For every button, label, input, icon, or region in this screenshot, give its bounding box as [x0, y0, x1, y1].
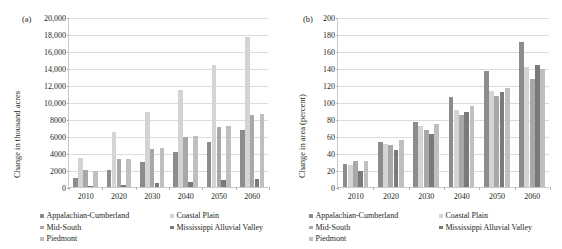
bar — [212, 65, 217, 187]
x-axis-tick-label: 2030 — [144, 192, 160, 201]
x-axis-tick-mark — [202, 187, 203, 190]
y-axis-tick-mark — [67, 103, 69, 104]
y-axis-tick-mark — [67, 86, 69, 87]
gridline — [69, 69, 268, 70]
x-axis-tick-mark — [338, 187, 339, 190]
bar — [178, 90, 183, 187]
x-axis-tick-mark — [136, 187, 137, 190]
bar — [207, 142, 212, 187]
bar — [245, 37, 250, 187]
bar — [454, 110, 459, 187]
legend-swatch-icon — [309, 214, 313, 218]
y-axis-tick-mark — [67, 137, 69, 138]
gridline — [69, 52, 268, 53]
panel-a-label: (a) — [22, 14, 31, 24]
y-axis-tick-mark — [67, 69, 69, 70]
bar — [358, 171, 363, 187]
bar — [78, 158, 83, 187]
y-axis-tick-label: 20,000 — [44, 14, 66, 23]
panel-b: (b) Change in area (percent) 02040608010… — [281, 0, 562, 249]
bar — [150, 149, 155, 187]
bar — [399, 140, 404, 187]
gridline — [69, 18, 268, 19]
bar — [145, 112, 150, 187]
panel-a: (a) Change in thousand acres 02000400060… — [0, 0, 281, 249]
y-axis-tick-mark — [67, 154, 69, 155]
gridline — [338, 171, 549, 172]
x-axis-tick-label: 2020 — [383, 192, 399, 201]
bar — [260, 114, 265, 187]
x-axis-tick-mark — [269, 187, 270, 190]
legend-swatch-icon — [170, 226, 174, 230]
y-axis-tick-label: 18,000 — [44, 31, 66, 40]
gridline — [338, 86, 549, 87]
y-axis-tick-label: 60 — [327, 133, 335, 142]
bar — [524, 67, 529, 187]
bar — [173, 152, 178, 187]
bar — [519, 42, 524, 187]
gridline — [338, 35, 549, 36]
x-axis-tick-mark — [409, 187, 410, 190]
panel-b-y-axis-label: Change in area (percent) — [297, 94, 307, 178]
y-axis-tick-mark — [67, 171, 69, 172]
legend-swatch-icon — [40, 226, 44, 230]
bar — [459, 115, 464, 187]
gridline — [69, 86, 268, 87]
gridline — [69, 154, 268, 155]
legend-item-label: Appalachian-Cumberland — [316, 211, 399, 220]
bar — [378, 142, 383, 187]
bar — [470, 106, 475, 187]
figure-container: (a) Change in thousand acres 02000400060… — [0, 0, 562, 249]
bar — [505, 88, 510, 187]
bar — [530, 79, 535, 187]
gridline — [69, 120, 268, 121]
y-axis-tick-label: 20 — [327, 167, 335, 176]
y-axis-tick-label: 180 — [323, 31, 335, 40]
bar — [121, 185, 126, 187]
bar — [388, 145, 393, 188]
x-axis-tick-label: 2010 — [78, 192, 94, 201]
bar — [484, 71, 489, 187]
bar — [112, 132, 117, 187]
bar — [343, 164, 348, 187]
legend-item-label: Mid-South — [316, 223, 351, 232]
gridline — [338, 18, 549, 19]
bar — [255, 179, 260, 188]
legend-swatch-icon — [309, 226, 313, 230]
y-axis-tick-label: 12,000 — [44, 82, 66, 91]
bar — [540, 69, 545, 187]
legend-spacer — [439, 233, 532, 245]
gridline — [338, 103, 549, 104]
y-axis-tick-label: 2000 — [50, 167, 66, 176]
y-axis-tick-mark — [336, 154, 338, 155]
bar — [188, 182, 193, 187]
bar — [500, 92, 505, 187]
bar — [353, 161, 358, 187]
gridline — [338, 120, 549, 121]
y-axis-tick-mark — [336, 137, 338, 138]
legend-item-label: Coastal Plain — [177, 211, 219, 220]
bar — [383, 144, 388, 187]
y-axis-tick-label: 14,000 — [44, 65, 66, 74]
y-axis-tick-mark — [336, 103, 338, 104]
y-axis-tick-label: 16,000 — [44, 48, 66, 57]
gridline — [69, 103, 268, 104]
panel-a-y-axis-label: Change in thousand acres — [12, 91, 22, 178]
y-axis-tick-label: 160 — [323, 48, 335, 57]
legend-item-label: Piedmont — [47, 234, 78, 243]
gridline — [338, 137, 549, 138]
bar — [535, 65, 540, 187]
legend-item-label: Mississippi Alluvial Valley — [446, 223, 533, 232]
x-axis-tick-label: 2050 — [211, 192, 227, 201]
legend-item: Piedmont — [40, 233, 168, 245]
bar — [83, 170, 88, 187]
panel-b-plot-area: 0204060801001201401601802002010202020302… — [337, 18, 549, 188]
x-axis-tick-label: 2060 — [244, 192, 260, 201]
x-axis-tick-mark — [373, 187, 374, 190]
bar — [413, 122, 418, 187]
bar — [160, 148, 165, 187]
x-axis-tick-label: 2040 — [454, 192, 470, 201]
x-axis-tick-mark — [550, 187, 551, 190]
legend-item: Mid-South — [309, 222, 437, 234]
legend-swatch-icon — [40, 214, 44, 218]
